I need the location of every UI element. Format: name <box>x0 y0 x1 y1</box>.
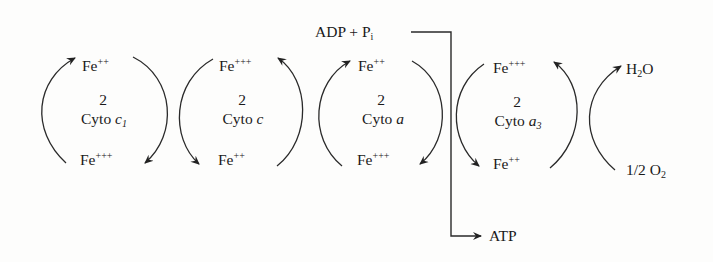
oxygen-reduction: H2O 1/2 O2 <box>589 60 665 180</box>
count-label: 2 <box>513 93 521 110</box>
atp-label: ATP <box>489 227 517 244</box>
arc-left-down-arrow <box>456 64 484 166</box>
arc-right-down-arrow <box>133 57 167 163</box>
fe-top-label: Fe++ <box>358 56 385 74</box>
cycle-cyto-c1: Fe++ 2 Cyto c1 Fe+++ <box>42 56 168 168</box>
count-label: 2 <box>99 91 107 108</box>
adp-pi-label: ADP + Pi <box>315 23 374 42</box>
arc-right-up-arrow <box>550 62 577 168</box>
cytochrome-name: Cyto a3 <box>495 112 542 131</box>
phosphorylation: ADP + Pi ATP <box>315 23 517 244</box>
arc-up-arrow <box>589 66 621 170</box>
cycle-cyto-a3: Fe+++ 2 Cyto a3 Fe++ <box>456 58 577 172</box>
count-label: 2 <box>377 91 385 108</box>
fe-top-label: Fe++ <box>82 56 109 74</box>
phosphorylation-path-arrow <box>411 32 481 236</box>
count-label: 2 <box>238 91 246 108</box>
cycle-cyto-a: Fe++ 2 Cyto a Fe+++ <box>319 56 443 168</box>
water-label: H2O <box>626 60 653 79</box>
cytochrome-name: Cyto c1 <box>81 110 127 129</box>
fe-top-label: Fe+++ <box>219 56 252 74</box>
fe-top-label: Fe+++ <box>493 58 526 76</box>
arc-left-up-arrow <box>42 58 75 163</box>
arc-right-down-arrow <box>412 61 442 164</box>
cytochrome-name: Cyto c <box>223 110 264 127</box>
fe-bottom-label: Fe+++ <box>357 150 390 168</box>
fe-bottom-label: Fe++ <box>218 150 245 168</box>
oxygen-label: 1/2 O2 <box>626 161 666 180</box>
cytochrome-name: Cyto a <box>362 110 404 127</box>
cycle-cyto-c: Fe+++ 2 Cyto c Fe++ <box>179 56 302 168</box>
diagram-canvas: Fe++ 2 Cyto c1 Fe+++ Fe+++ 2 Cyto c Fe++… <box>0 0 713 262</box>
fe-bottom-label: Fe+++ <box>80 150 113 168</box>
arc-left-up-arrow <box>319 61 350 166</box>
fe-bottom-label: Fe++ <box>493 154 520 172</box>
arc-left-down-arrow <box>179 59 213 164</box>
arc-right-up-arrow <box>277 58 303 166</box>
